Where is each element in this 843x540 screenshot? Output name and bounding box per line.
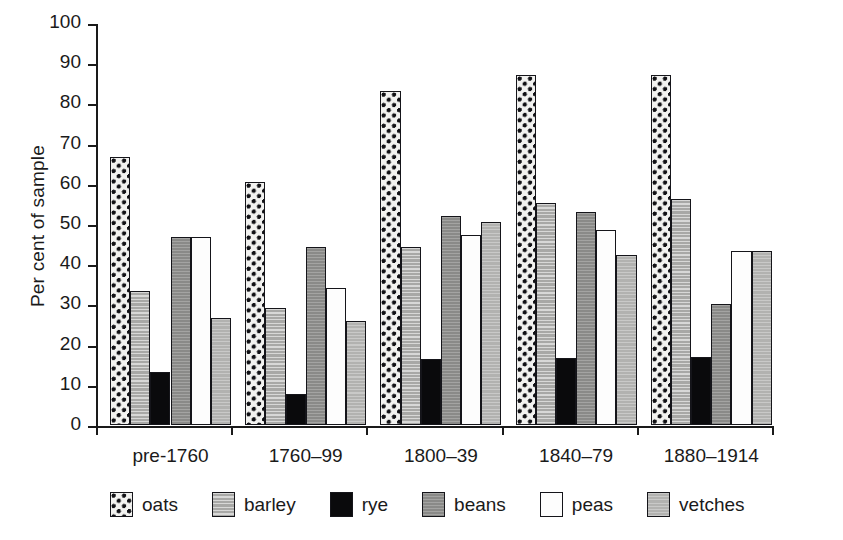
y-axis-tick-label: 0 xyxy=(29,413,81,435)
y-axis-tick: 60 xyxy=(88,185,96,187)
y-axis-tick: 30 xyxy=(88,305,96,307)
legend-label-oats: oats xyxy=(142,494,178,516)
y-axis-tick: 0 xyxy=(88,426,96,428)
bar-oats-3 xyxy=(516,75,536,425)
y-axis-line xyxy=(96,24,98,428)
chart-legend: oatsbarleyryebeanspeasvetches xyxy=(110,492,779,517)
y-axis-tick-label: 60 xyxy=(29,172,81,194)
y-axis-tick-label: 70 xyxy=(29,132,81,154)
x-axis-tick xyxy=(96,426,98,435)
bar-beans-4 xyxy=(711,304,731,425)
x-axis-label-4: 1880–1914 xyxy=(631,445,791,467)
bar-chart: Per cent of sample 100908070605040302010… xyxy=(0,0,843,540)
bar-peas-0 xyxy=(191,237,211,425)
legend-swatch-vetches-icon xyxy=(647,492,670,517)
bar-barley-2 xyxy=(401,247,421,425)
bar-vetches-4 xyxy=(752,251,772,425)
bar-vetches-1 xyxy=(346,321,366,425)
y-axis-tick-label: 10 xyxy=(29,373,81,395)
bar-peas-1 xyxy=(326,288,346,425)
legend-label-barley: barley xyxy=(244,494,296,516)
bar-rye-2 xyxy=(421,359,441,425)
bar-rye-0 xyxy=(150,372,170,425)
legend-swatch-beans-icon xyxy=(422,492,445,517)
y-axis-tick-label: 20 xyxy=(29,333,81,355)
bar-vetches-3 xyxy=(616,255,636,425)
bar-peas-2 xyxy=(461,235,481,425)
x-axis-line xyxy=(96,426,773,428)
y-axis-tick-label: 50 xyxy=(29,212,81,234)
bar-peas-4 xyxy=(731,251,751,425)
y-axis-tick-label: 100 xyxy=(29,11,81,33)
y-axis-tick-label: 40 xyxy=(29,252,81,274)
legend-item-beans[interactable]: beans xyxy=(422,492,506,517)
y-axis-tick: 100 xyxy=(88,24,96,26)
bar-vetches-0 xyxy=(211,318,231,425)
legend-label-rye: rye xyxy=(362,494,388,516)
bar-oats-4 xyxy=(651,75,671,425)
legend-swatch-barley-icon xyxy=(212,492,235,517)
legend-label-vetches: vetches xyxy=(679,494,744,516)
bar-barley-0 xyxy=(130,291,150,425)
x-axis-tick xyxy=(772,426,774,435)
legend-swatch-peas-icon xyxy=(540,492,563,517)
y-axis-tick: 20 xyxy=(88,346,96,348)
bar-oats-1 xyxy=(245,182,265,425)
legend-item-vetches[interactable]: vetches xyxy=(647,492,744,517)
bar-oats-0 xyxy=(110,157,130,425)
bar-barley-1 xyxy=(265,308,285,425)
bar-peas-3 xyxy=(596,230,616,425)
y-axis-tick-label: 80 xyxy=(29,91,81,113)
legend-item-rye[interactable]: rye xyxy=(330,492,388,517)
y-axis-tick: 10 xyxy=(88,386,96,388)
bar-group xyxy=(651,23,772,425)
bar-group xyxy=(516,23,637,425)
legend-swatch-rye-icon xyxy=(330,492,353,517)
plot-area: 1009080706050403020100 xyxy=(96,24,772,427)
y-axis-tick: 70 xyxy=(88,145,96,147)
x-axis-tick xyxy=(502,426,504,435)
y-axis-tick: 80 xyxy=(88,104,96,106)
bar-rye-3 xyxy=(556,358,576,425)
bar-beans-3 xyxy=(576,212,596,425)
legend-item-oats[interactable]: oats xyxy=(110,492,178,517)
bar-beans-0 xyxy=(171,237,191,425)
bar-group xyxy=(110,23,231,425)
bar-rye-1 xyxy=(286,394,306,425)
y-axis-tick: 50 xyxy=(88,225,96,227)
y-axis-tick-label: 90 xyxy=(29,51,81,73)
y-axis-tick-label: 30 xyxy=(29,292,81,314)
bar-rye-4 xyxy=(691,357,711,425)
x-axis-tick xyxy=(637,426,639,435)
bar-vetches-2 xyxy=(481,222,501,425)
legend-label-beans: beans xyxy=(454,494,506,516)
legend-swatch-oats-icon xyxy=(110,492,133,517)
y-axis-tick: 90 xyxy=(88,64,96,66)
x-axis-tick xyxy=(231,426,233,435)
bar-barley-4 xyxy=(671,199,691,425)
bar-group xyxy=(380,23,501,425)
legend-label-peas: peas xyxy=(572,494,613,516)
bar-beans-1 xyxy=(306,247,326,425)
legend-item-barley[interactable]: barley xyxy=(212,492,296,517)
x-axis-tick xyxy=(366,426,368,435)
bar-beans-2 xyxy=(441,216,461,425)
y-axis-tick: 40 xyxy=(88,265,96,267)
bar-oats-2 xyxy=(380,91,400,425)
legend-item-peas[interactable]: peas xyxy=(540,492,613,517)
bar-group xyxy=(245,23,366,425)
bar-barley-3 xyxy=(536,203,556,425)
